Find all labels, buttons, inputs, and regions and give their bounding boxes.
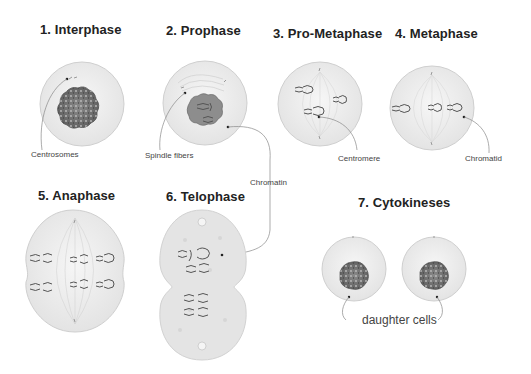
stage-title-metaphase: 4. Metaphase — [395, 26, 478, 41]
stage-title-cytokinesis: 7. Cytokineses — [358, 195, 450, 210]
stage-title-prophase: 2. Prophase — [166, 23, 241, 38]
label-centromere: Centromere — [338, 154, 380, 163]
label-centrosomes: Centrosomes — [31, 150, 79, 159]
stage-title-prometaphase: 3. Pro-Metaphase — [273, 26, 382, 41]
metaphase-cell — [390, 66, 489, 153]
label-spindle-fibers: Spindle fibers — [145, 151, 193, 160]
label-daughter-cells: daughter cells — [362, 313, 437, 327]
mitosis-diagram-art — [0, 0, 531, 374]
prometaphase-cell — [278, 62, 362, 150]
stage-title-telophase: 6. Telophase — [166, 189, 245, 204]
stage-title-interphase: 1. Interphase — [40, 22, 122, 37]
cytokinesis-cells — [322, 236, 466, 320]
label-chromatid: Chromatid — [465, 154, 502, 163]
anaphase-cell — [26, 210, 124, 332]
label-chromatin: Chromatin — [250, 178, 287, 187]
stage-title-anaphase: 5. Anaphase — [38, 188, 115, 203]
telophase-cell — [160, 210, 246, 360]
interphase-cell — [40, 62, 124, 150]
